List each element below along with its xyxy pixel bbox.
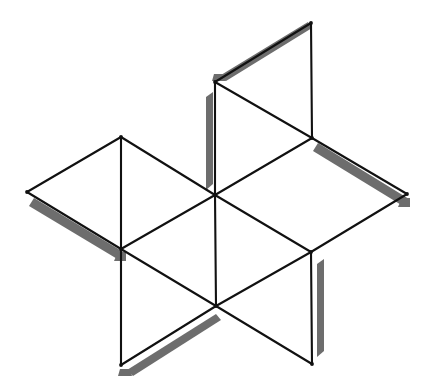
vertex-lower-left-node [119, 247, 123, 251]
edge-lower-right-to-bottom-right [311, 252, 312, 364]
vertex-upper-right-node [310, 136, 314, 140]
shadow-bottom-left-cap [118, 369, 132, 376]
vertex-far-left-apex [25, 190, 29, 194]
vertex-far-right-apex [405, 192, 409, 196]
shadow-lower-right-vertical [317, 259, 324, 357]
vertex-center-node [213, 193, 217, 197]
edge-top-to-upper-right [311, 23, 312, 138]
vertex-top-apex [309, 21, 313, 25]
vertex-bottom-node [214, 304, 218, 308]
shadow-upper-vertical-edge [206, 92, 213, 190]
edge-center-to-bottom [215, 195, 216, 306]
vertex-lower-right-node [309, 250, 313, 254]
vertex-bottom-right-apex [310, 362, 314, 366]
geometric-net-drawing [0, 0, 431, 392]
vertex-upper-left-node [213, 80, 217, 84]
vertex-left-apex [119, 135, 123, 139]
vertex-bottom-left-apex [119, 363, 123, 367]
figure-canvas [0, 0, 431, 392]
